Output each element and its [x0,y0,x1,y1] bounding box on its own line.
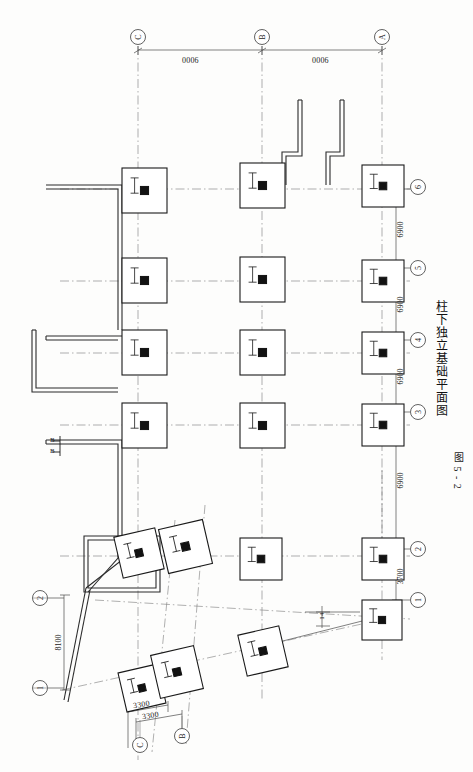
pier [379,555,387,563]
section-marker-label-right: B [50,447,55,455]
footing[interactable] [159,520,213,574]
grid-bubble-bottom-B[interactable]: B [175,729,190,744]
footing[interactable] [122,330,167,375]
grid-bubble-right-1[interactable]: 1 [411,593,426,608]
grid-bubble-label: 1 [414,598,423,602]
pier [181,542,191,552]
figure-number: 图 5 - 2 [450,452,465,490]
wall-left-upper [46,185,122,330]
pier [138,684,147,693]
grid-bubble-top-B[interactable]: B [255,30,270,45]
footings-layer [114,163,404,712]
section-marker-label-left: B [50,436,55,444]
pier [140,276,148,284]
footing[interactable] [240,330,285,375]
grid-bubble-label: A [378,34,387,40]
grid-bubble-label: 4 [414,338,423,342]
footing[interactable] [240,257,285,302]
grid-bubble-bottom-C[interactable]: C [133,738,148,753]
pier [378,616,385,623]
top-dimension-line [134,46,386,55]
grid-bubble-label: 2 [414,547,423,551]
pier [258,421,266,429]
pier [379,277,387,285]
right-dimension-label-2: 6900 [396,297,405,313]
wall-top-right-fins [282,100,344,185]
footing[interactable] [240,163,285,208]
grid-bubble-right-6[interactable]: 6 [411,180,426,195]
pier [172,667,181,676]
grid-bubble-top-C[interactable]: C [131,30,146,45]
pier [257,555,265,563]
pier [134,548,143,557]
right-dimension-label-6: 3700 [396,569,405,585]
foundation-plan-svg: .ln{stroke:#1a1a1a;fill:none;} .cl{strok… [0,0,473,772]
drawing-title: 柱下独立基础平面图 [433,300,447,417]
top-dimension-label-1: 0006 [182,56,199,65]
grid-bubble-label: 5 [414,266,423,270]
title-block: 柱下独立基础平面图 [433,300,467,417]
grid-bubble-label: B [258,34,267,39]
drawing-sheet: .ln{stroke:#1a1a1a;fill:none;} .cl{strok… [0,0,473,772]
footing[interactable] [240,403,285,448]
footing[interactable] [122,403,167,448]
pier [258,348,266,356]
pier [140,421,148,429]
footing[interactable] [122,168,167,213]
angle-dimension-label-14: 14 [318,612,326,619]
pier [258,275,266,283]
footing[interactable] [362,165,404,207]
footing[interactable] [362,404,404,446]
footing[interactable] [240,538,282,580]
left-dimension-label-8100: 8100 [54,635,63,651]
pier [379,182,387,190]
grid-bubble-label: B [178,733,187,738]
footing[interactable] [122,258,167,303]
right-dimension-label-3: 6900 [396,369,405,385]
pier [258,181,266,189]
pier [379,349,387,357]
footing[interactable] [114,528,164,578]
wall-left-middle [46,336,122,340]
wall-channel-left [32,330,118,392]
grid-bubble-label: 6 [414,185,423,189]
grid-bubble-label: C [136,742,145,747]
grid-bubble-top-A[interactable]: A [375,30,390,45]
grid-bubbles-layer: CBA65432121CB [33,30,426,753]
footing[interactable] [362,600,402,640]
footing[interactable] [151,646,204,699]
right-dimension-label-1: 6900 [396,222,405,238]
pier [258,646,267,655]
grid-bubble-right-2[interactable]: 2 [411,542,426,557]
right-dimension-label-4: 6900 [396,473,405,489]
pier [140,186,148,194]
grid-bubble-label: 3 [414,410,423,414]
grid-bubble-right-4[interactable]: 4 [411,333,426,348]
top-dimension-label-2: 0006 [312,56,329,65]
grid-bubble-right-3[interactable]: 3 [411,405,426,420]
grid-bubble-right-5[interactable]: 5 [411,261,426,276]
grid-bubble-label: C [134,34,143,39]
footing[interactable] [238,626,288,676]
pier [379,421,387,429]
pier [140,348,148,356]
